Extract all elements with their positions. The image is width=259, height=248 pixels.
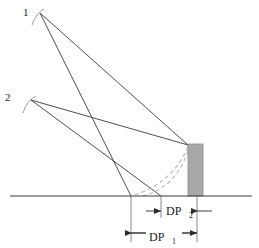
trajectory-curve-group <box>131 147 188 196</box>
trajectory-curve-outer <box>131 147 188 196</box>
source-2-label: 2 <box>5 91 11 103</box>
ray-2-to-ground <box>31 100 161 196</box>
dimension-dp2: DP 2 <box>146 204 212 220</box>
dp2-label: DP <box>166 204 182 218</box>
rays-from-source-2 <box>31 100 188 196</box>
dp2-subscript: 2 <box>189 211 193 220</box>
source-1-label: 1 <box>23 6 29 18</box>
ray-1-to-wall <box>40 13 188 145</box>
wall-block <box>188 144 203 196</box>
diagram-canvas: DP 2 DP 1 1 2 <box>0 0 259 248</box>
dimension-dp1: DP 1 <box>131 228 197 246</box>
dp1-subscript: 1 <box>172 237 176 246</box>
source-2-arc <box>23 96 36 113</box>
source-arc-group <box>23 9 44 113</box>
rays-from-source-1 <box>40 13 188 196</box>
dp1-label: DP <box>149 230 165 244</box>
ray-2-to-wall <box>31 100 188 145</box>
blast-trajectory-diagram: DP 2 DP 1 1 2 <box>0 0 259 248</box>
ray-1-to-ground <box>40 13 131 196</box>
